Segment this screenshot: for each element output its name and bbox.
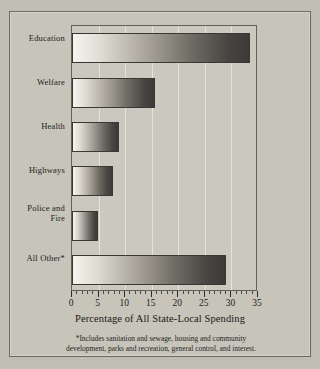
bar-highways[interactable] xyxy=(72,166,113,196)
x-tick-minor-34 xyxy=(252,291,253,294)
bar-all-other[interactable] xyxy=(72,255,226,285)
x-tick-minor-26 xyxy=(209,291,210,294)
x-tick-minor-24 xyxy=(199,291,200,294)
x-tick-minor-8 xyxy=(114,291,115,294)
category-label-welfare: Welfare xyxy=(9,77,65,87)
x-tick-major-15 xyxy=(151,291,152,297)
bar-row xyxy=(72,166,258,196)
x-tick-label-25: 25 xyxy=(199,298,209,308)
x-tick-minor-21 xyxy=(183,291,184,294)
x-tick-major-0 xyxy=(71,291,72,297)
x-tick-major-35 xyxy=(257,291,258,297)
x-tick-label-10: 10 xyxy=(119,298,129,308)
category-label-education: Education xyxy=(9,33,65,43)
x-tick-minor-19 xyxy=(172,291,173,294)
x-tick-minor-12 xyxy=(135,291,136,294)
x-tick-minor-18 xyxy=(167,291,168,294)
page-background: Education Welfare Health Highways Police… xyxy=(0,0,294,369)
x-tick-label-15: 15 xyxy=(146,298,156,308)
x-tick-major-20 xyxy=(177,291,178,297)
x-tick-minor-23 xyxy=(193,291,194,294)
x-tick-major-10 xyxy=(124,291,125,297)
bar-welfare[interactable] xyxy=(72,78,155,108)
category-label-highways-line1: Highways xyxy=(29,165,65,175)
category-axis-labels: Education Welfare Health Highways Police… xyxy=(10,25,69,291)
chart-area: Education Welfare Health Highways Police… xyxy=(10,12,294,356)
x-tick-minor-29 xyxy=(225,291,226,294)
bar-police-and-fire[interactable] xyxy=(72,211,98,241)
category-label-police-and-fire-line1: Police and xyxy=(27,203,65,213)
x-tick-minor-31 xyxy=(236,291,237,294)
footnote: *Includes sanitation and sewage, housing… xyxy=(24,334,294,354)
x-tick-minor-3 xyxy=(87,291,88,294)
x-tick-label-35: 35 xyxy=(252,298,262,308)
category-label-all-other-line1: All Other* xyxy=(26,253,65,263)
category-label-highways: Highways xyxy=(9,165,65,175)
x-tick-minor-27 xyxy=(214,291,215,294)
chart-frame: Education Welfare Health Highways Police… xyxy=(9,11,294,357)
x-tick-label-5: 5 xyxy=(95,298,100,308)
x-tick-minor-2 xyxy=(82,291,83,294)
x-tick-minor-22 xyxy=(188,291,189,294)
category-label-all-other: All Other* xyxy=(9,253,65,263)
x-tick-minor-1 xyxy=(76,291,77,294)
category-label-health-line1: Health xyxy=(41,121,65,131)
x-tick-label-30: 30 xyxy=(226,298,236,308)
plot-area xyxy=(71,25,257,291)
x-tick-minor-17 xyxy=(161,291,162,294)
category-label-police-and-fire: Police and Fire xyxy=(9,203,65,223)
x-tick-minor-16 xyxy=(156,291,157,294)
x-tick-minor-7 xyxy=(108,291,109,294)
category-label-welfare-line1: Welfare xyxy=(37,77,65,87)
x-tick-minor-11 xyxy=(129,291,130,294)
x-tick-major-5 xyxy=(98,291,99,297)
footnote-line2: development, parks and recreation, gener… xyxy=(66,344,256,353)
x-tick-minor-32 xyxy=(241,291,242,294)
bar-row xyxy=(72,78,258,108)
footnote-line1: *Includes sanitation and sewage, housing… xyxy=(76,334,247,343)
bar-row xyxy=(72,255,258,285)
bar-health[interactable] xyxy=(72,122,119,152)
x-tick-minor-13 xyxy=(140,291,141,294)
bar-row xyxy=(72,33,258,63)
x-tick-minor-4 xyxy=(92,291,93,294)
x-tick-minor-6 xyxy=(103,291,104,294)
bar-series xyxy=(72,26,256,290)
x-tick-minor-9 xyxy=(119,291,120,294)
x-tick-major-30 xyxy=(230,291,231,297)
bar-education[interactable] xyxy=(72,33,250,63)
x-axis-title: Percentage of All State-Local Spending xyxy=(10,313,294,324)
x-tick-label-0: 0 xyxy=(69,298,74,308)
category-label-police-and-fire-line2: Fire xyxy=(51,213,66,223)
category-label-education-line1: Education xyxy=(29,33,65,43)
bar-row xyxy=(72,122,258,152)
x-tick-major-25 xyxy=(204,291,205,297)
x-tick-minor-14 xyxy=(145,291,146,294)
x-axis-ticks xyxy=(71,291,257,297)
x-axis-tick-labels: 05101520253035 xyxy=(71,298,257,312)
x-tick-minor-33 xyxy=(246,291,247,294)
category-label-health: Health xyxy=(9,121,65,131)
x-tick-label-20: 20 xyxy=(173,298,183,308)
x-tick-minor-28 xyxy=(220,291,221,294)
bar-row xyxy=(72,211,258,241)
